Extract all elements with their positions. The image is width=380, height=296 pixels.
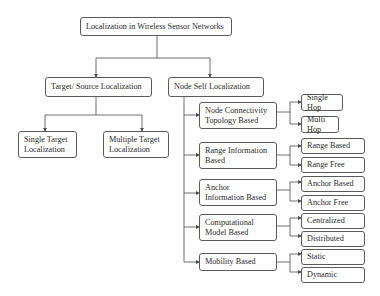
multiple-target-node: Multiple Target Localization (103, 131, 169, 158)
centralized-node: Centralized (301, 213, 365, 229)
dynamic-node: Dynamic (301, 267, 365, 283)
root-node: Localization in Wireless Sensor Networks (80, 17, 232, 36)
node-self-localization-node: Node Self Localization (168, 77, 264, 97)
range-based-node: Range Based (301, 138, 365, 154)
static-node: Static (301, 249, 365, 265)
distributed-node: Distributed (301, 231, 365, 247)
anchor-information-node: Anchor Information Based (199, 179, 277, 206)
target-source-localization-node: Target/ Source Localization (45, 77, 152, 97)
mobility-node: Mobility Based (199, 253, 277, 271)
computational-model-node: Computational Model Based (199, 214, 277, 241)
multi-hop-node: Multi Hop (301, 116, 339, 133)
anchor-based-node: Anchor Based (301, 176, 365, 192)
anchor-free-node: Anchor Free (301, 195, 365, 211)
single-target-node: Single Target Localization (18, 131, 77, 158)
single-hop-node: Single Hop (301, 94, 343, 111)
node-connectivity-node: Node Connectivity Topology Based (199, 102, 277, 129)
range-free-node: Range Free (301, 157, 365, 173)
range-information-node: Range Information Based (199, 142, 277, 169)
